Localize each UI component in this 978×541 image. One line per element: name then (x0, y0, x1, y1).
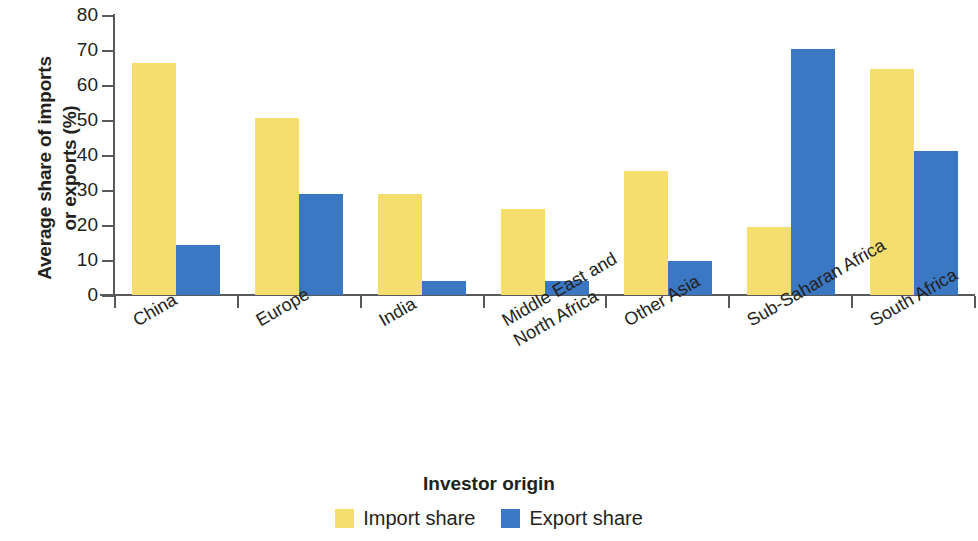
y-axis-tick-label: 50 (58, 110, 98, 129)
x-axis-tick-mark (237, 296, 239, 308)
y-axis-tick-mark (102, 120, 113, 122)
y-axis-title: Average share of imports or exports (%) (32, 18, 82, 318)
bar-export-share (791, 49, 835, 295)
legend-item: Import share (335, 508, 475, 528)
y-axis-tick-label: 70 (58, 40, 98, 59)
bar-import-share (501, 209, 545, 295)
y-axis-tick-label: 0 (58, 285, 98, 304)
y-axis-tick-mark (102, 85, 113, 87)
x-axis-title: Investor origin (0, 473, 978, 495)
y-axis-tick-label: 20 (58, 215, 98, 234)
x-axis-tick-mark (974, 296, 976, 308)
chart-legend: Import shareExport share (0, 508, 978, 528)
legend-label: Export share (529, 508, 642, 528)
legend-label: Import share (363, 508, 475, 528)
legend-swatch-icon (335, 509, 354, 528)
y-axis-tick-mark (102, 190, 113, 192)
y-axis-tick-label: 30 (58, 180, 98, 199)
y-axis-tick-mark (102, 155, 113, 157)
y-axis-tick-label: 80 (58, 5, 98, 24)
y-axis-tick-mark (102, 225, 113, 227)
bar-export-share (176, 245, 220, 295)
y-axis-tick-label: 60 (58, 75, 98, 94)
x-axis-tick-mark (728, 296, 730, 308)
x-axis-tick-mark (360, 296, 362, 308)
legend-swatch-icon (501, 509, 520, 528)
y-axis-tick-mark (102, 295, 113, 297)
x-axis-tick-label: India (375, 292, 420, 331)
bar-import-share (624, 171, 668, 295)
y-axis-tick-mark (102, 50, 113, 52)
bar-import-share (378, 194, 422, 296)
y-axis-tick-label: 40 (58, 145, 98, 164)
legend-item: Export share (501, 508, 642, 528)
bar-import-share (255, 118, 299, 295)
bar-import-share (132, 63, 176, 295)
y-axis-tick-label: 10 (58, 250, 98, 269)
x-axis-tick-mark (483, 296, 485, 308)
bar-chart-figure: Average share of imports or exports (%) … (0, 0, 978, 541)
bar-import-share (747, 227, 791, 295)
x-axis-tick-mark (851, 296, 853, 308)
y-axis-tick-mark (102, 15, 113, 17)
y-axis-tick-mark (102, 260, 113, 262)
bar-export-share (422, 281, 466, 295)
bar-export-share (299, 194, 343, 295)
x-axis-tick-mark (114, 296, 116, 308)
